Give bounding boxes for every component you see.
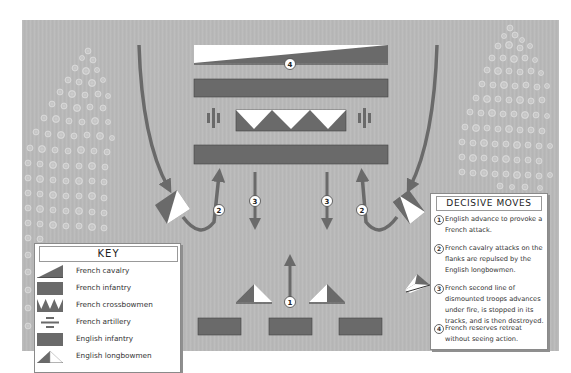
key-label: English longbowmen <box>76 350 152 362</box>
french-cavalry-right <box>393 190 425 224</box>
english-longbowmen-left <box>236 284 272 303</box>
marker-3-left: 3 <box>250 196 261 207</box>
french-artillery-left <box>207 108 220 128</box>
english-infantry-center <box>269 318 312 335</box>
key-title: KEY <box>39 246 178 262</box>
move-text: French second line of dismounted troops … <box>445 283 545 327</box>
key-item-french-cavalry: French cavalry <box>37 264 177 280</box>
decisive-moves-panel: DECISIVE MOVES 1 English advance to prov… <box>430 193 548 350</box>
key-label: French infantry <box>76 282 131 294</box>
key-label: French crossbowmen <box>76 299 153 311</box>
french-crossbowmen <box>236 110 346 131</box>
marker-1: 1 <box>285 297 296 308</box>
english-infantry-icon <box>37 333 63 346</box>
french-infantry-line-1 <box>194 79 388 97</box>
key-item-english-longbowmen: English longbowmen <box>37 349 177 365</box>
cavalry-arrow-right <box>410 45 437 187</box>
french-artillery-right <box>358 108 371 128</box>
woods-right <box>459 25 553 191</box>
move-number: 4 <box>434 324 444 334</box>
move-number: 1 <box>434 215 444 225</box>
cavalry-arrow-left <box>139 45 168 187</box>
key-label: English infantry <box>76 333 133 345</box>
french-cavalry-icon <box>37 265 63 278</box>
move-number: 2 <box>434 244 444 254</box>
english-infantry-left <box>198 318 241 335</box>
move-number: 3 <box>434 284 444 294</box>
repulse-arrow-left <box>183 175 219 230</box>
english-longbowmen-flank <box>405 274 430 293</box>
key-item-french-artillery: French artillery <box>37 315 177 331</box>
move-text: French cavalry attacks on the flanks are… <box>445 243 545 276</box>
marker-2-left: 2 <box>214 205 225 216</box>
english-longbowmen-icon <box>37 350 63 363</box>
repulse-arrow-right <box>362 175 397 230</box>
svg-text:3: 3 <box>325 198 330 206</box>
svg-text:4: 4 <box>288 61 293 69</box>
move-text: French reserves retreat without seeing a… <box>445 323 545 345</box>
french-infantry-icon <box>37 282 63 295</box>
french-artillery-icon <box>37 316 63 329</box>
key-label: French artillery <box>76 316 131 328</box>
french-infantry-line-2 <box>194 145 388 164</box>
key-label: French cavalry <box>76 265 129 277</box>
french-crossbowmen-icon <box>37 299 63 312</box>
svg-text:3: 3 <box>253 198 258 206</box>
key-item-french-crossbowmen: French crossbowmen <box>37 298 177 314</box>
english-infantry-right <box>339 318 382 335</box>
english-longbowmen-right <box>309 284 345 303</box>
key-item-french-infantry: French infantry <box>37 281 177 297</box>
marker-3-right: 3 <box>322 196 333 207</box>
marker-2-right: 2 <box>357 205 368 216</box>
key-panel: KEY French cavalry French infantry Frenc… <box>34 243 181 373</box>
decisive-moves-title: DECISIVE MOVES <box>436 196 542 211</box>
move-text: English advance to provoke a French atta… <box>445 214 545 236</box>
svg-text:2: 2 <box>217 207 222 215</box>
svg-text:2: 2 <box>360 207 365 215</box>
marker-4: 4 <box>285 59 296 70</box>
svg-text:1: 1 <box>288 299 293 307</box>
key-item-english-infantry: English infantry <box>37 332 177 348</box>
